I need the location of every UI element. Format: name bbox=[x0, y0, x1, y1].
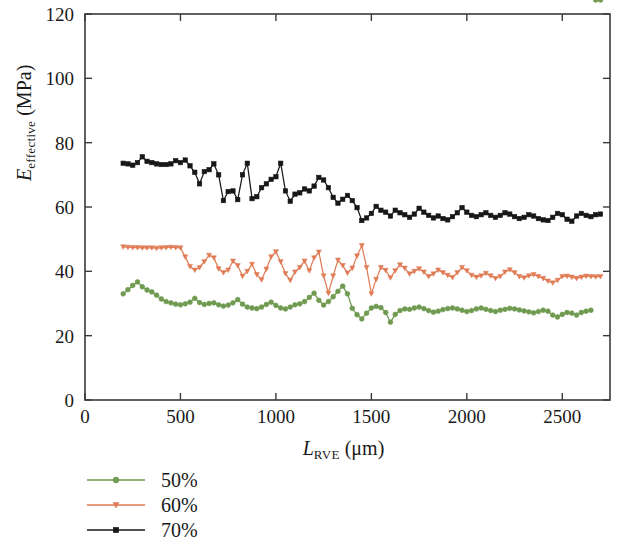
data-point-marker bbox=[302, 299, 307, 304]
data-point-marker bbox=[474, 307, 479, 312]
y-axis-label: Eeffective (MPa) bbox=[13, 13, 39, 233]
data-point-marker bbox=[488, 308, 493, 313]
data-point-marker bbox=[226, 189, 230, 193]
data-point-marker bbox=[531, 310, 536, 315]
data-point-marker bbox=[546, 309, 551, 314]
data-point-marker bbox=[292, 270, 297, 275]
data-point-marker bbox=[173, 302, 178, 307]
x-axis-label-subscript: RVE bbox=[314, 447, 340, 462]
data-point-marker bbox=[579, 211, 583, 215]
data-point-marker bbox=[498, 213, 502, 217]
legend-item-70[interactable]: 70% bbox=[85, 518, 198, 540]
chart-figure: 05001000150020002500 020406080100120 Eef… bbox=[0, 0, 617, 540]
data-point-marker bbox=[560, 312, 565, 317]
x-axis-label: LRVE (μm) bbox=[0, 437, 617, 463]
data-point-marker bbox=[584, 213, 588, 217]
data-point-marker bbox=[364, 311, 369, 316]
data-point-marker bbox=[598, 212, 602, 216]
data-point-marker bbox=[297, 301, 302, 306]
legend-label: 60% bbox=[161, 495, 198, 515]
data-point-marker bbox=[321, 178, 325, 182]
data-point-marker bbox=[183, 255, 188, 260]
data-point-marker bbox=[431, 310, 436, 315]
data-point-marker bbox=[307, 269, 312, 274]
data-point-marker bbox=[340, 284, 345, 289]
data-point-marker bbox=[364, 216, 368, 220]
data-point-marker bbox=[140, 155, 144, 159]
data-point-marker bbox=[113, 477, 119, 483]
data-point-marker bbox=[503, 211, 507, 215]
data-point-marker bbox=[469, 213, 473, 217]
data-point-marker bbox=[202, 169, 206, 173]
data-point-marker bbox=[407, 215, 411, 219]
data-point-marker bbox=[278, 306, 283, 311]
data-point-marker bbox=[555, 315, 560, 320]
x-tick-label: 0 bbox=[80, 406, 90, 427]
data-point-marker bbox=[350, 306, 355, 311]
data-point-marker bbox=[565, 217, 569, 221]
data-point-marker bbox=[226, 303, 231, 308]
data-point-marker bbox=[503, 307, 508, 312]
y-axis-label-variable: E bbox=[13, 169, 35, 181]
data-point-marker bbox=[479, 306, 484, 311]
data-point-marker bbox=[145, 288, 150, 293]
data-point-marker bbox=[369, 292, 374, 297]
data-point-marker bbox=[431, 272, 436, 277]
data-point-marker bbox=[221, 198, 225, 202]
data-point-marker bbox=[374, 204, 378, 208]
data-point-marker bbox=[326, 186, 330, 190]
data-point-marker bbox=[121, 161, 125, 165]
data-point-marker bbox=[197, 300, 202, 305]
data-point-marker bbox=[488, 274, 493, 279]
data-point-marker bbox=[388, 320, 393, 325]
data-point-marker bbox=[197, 265, 202, 270]
data-point-marker bbox=[388, 214, 392, 218]
data-point-marker bbox=[393, 208, 397, 212]
x-axis-tick-labels: 05001000150020002500 bbox=[80, 406, 581, 427]
data-point-marker bbox=[417, 305, 422, 310]
data-point-marker bbox=[536, 309, 541, 314]
data-point-marker bbox=[507, 306, 512, 311]
data-point-marker bbox=[508, 212, 512, 216]
data-point-marker bbox=[522, 276, 527, 281]
legend-marker-circle-icon bbox=[85, 473, 147, 487]
data-point-marker bbox=[527, 213, 531, 217]
data-point-marker bbox=[412, 269, 417, 274]
data-point-marker bbox=[245, 161, 249, 165]
data-point-marker bbox=[149, 290, 154, 295]
data-point-marker bbox=[355, 312, 360, 317]
data-point-marker bbox=[278, 161, 282, 165]
y-tick-label: 80 bbox=[55, 133, 74, 154]
data-point-marker bbox=[541, 276, 546, 281]
data-point-marker bbox=[378, 265, 383, 270]
data-point-marker bbox=[316, 298, 321, 303]
y-axis-label-subscript: effective bbox=[23, 121, 38, 169]
data-point-marker bbox=[493, 309, 498, 314]
data-point-marker bbox=[231, 300, 236, 305]
data-point-marker bbox=[269, 255, 274, 260]
data-point-marker bbox=[302, 187, 306, 191]
data-point-marker bbox=[336, 289, 341, 294]
data-point-marker bbox=[255, 195, 259, 199]
data-point-marker bbox=[288, 278, 293, 283]
data-point-marker bbox=[240, 302, 245, 307]
x-tick-label: 500 bbox=[166, 406, 195, 427]
data-point-marker bbox=[140, 284, 145, 289]
data-point-marker bbox=[293, 302, 298, 307]
data-point-marker bbox=[359, 244, 364, 249]
legend-item-50[interactable]: 50% bbox=[85, 468, 198, 491]
data-point-marker bbox=[546, 218, 550, 222]
data-point-marker bbox=[555, 211, 559, 215]
data-point-marker bbox=[412, 212, 416, 216]
data-point-marker bbox=[512, 214, 516, 218]
data-point-marker bbox=[402, 307, 407, 312]
data-point-marker bbox=[336, 201, 340, 205]
data-point-marker bbox=[541, 308, 546, 313]
data-point-marker bbox=[531, 214, 535, 218]
data-point-marker bbox=[221, 271, 226, 276]
data-point-marker bbox=[383, 210, 387, 214]
legend-item-60[interactable]: 60% bbox=[85, 493, 198, 516]
data-point-marker bbox=[469, 308, 474, 313]
data-point-marker bbox=[159, 162, 163, 166]
data-point-marker bbox=[579, 310, 584, 315]
